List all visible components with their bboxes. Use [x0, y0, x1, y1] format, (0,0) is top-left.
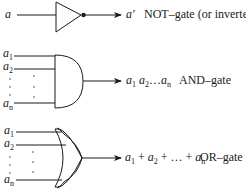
- and-output-label: a1 a2…an: [126, 74, 171, 88]
- or-input-a2-label: a2: [4, 137, 14, 151]
- or-back-curve-icon: [55, 129, 63, 187]
- not-input-label: a: [5, 8, 11, 20]
- not-triangle-icon: [56, 2, 81, 32]
- or-gate-description: OR–gate: [200, 151, 243, 163]
- not-output-label: a′: [126, 8, 135, 20]
- and-gate-description: AND–gate: [179, 74, 231, 86]
- and-input-a2-label: a2: [3, 60, 13, 74]
- or-output-label: a1 + a2 + … + an: [125, 151, 205, 165]
- and-input-an-label: an: [3, 97, 13, 111]
- and-body-icon: [55, 55, 83, 108]
- logic-gates-diagram: [0, 0, 246, 196]
- and-input-dots: [9, 75, 34, 97]
- not-gate-description: NOT–gate (or inverter): [144, 8, 246, 20]
- and-gate: [9, 55, 121, 108]
- or-gate: [9, 128, 121, 188]
- or-input-dots: [9, 151, 33, 173]
- or-input-an-label: an: [4, 173, 14, 187]
- not-gate: [17, 2, 121, 32]
